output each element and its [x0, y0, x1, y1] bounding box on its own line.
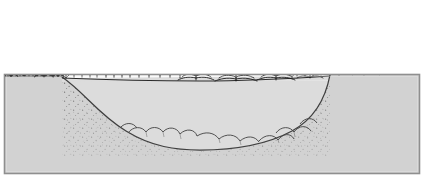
cross-section-canvas: [0, 0, 424, 180]
figure-root: Cross section of a filled kettle bog bas…: [0, 0, 424, 180]
